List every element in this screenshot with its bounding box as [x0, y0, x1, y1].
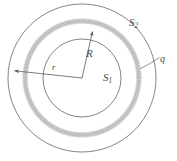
label-outer-surface: S2: [129, 17, 138, 30]
label-radius-R: R: [86, 48, 93, 59]
diagram-canvas: [0, 0, 177, 161]
label-outer-surface-subscript: 2: [135, 22, 139, 30]
figure-container: S2 S1 q R r: [0, 0, 177, 161]
label-charge: q: [160, 54, 165, 64]
label-radius-r: r: [52, 63, 56, 72]
label-inner-surface-subscript: 1: [109, 77, 113, 85]
leader-line-q: [141, 58, 160, 69]
label-inner-surface: S1: [103, 72, 112, 85]
